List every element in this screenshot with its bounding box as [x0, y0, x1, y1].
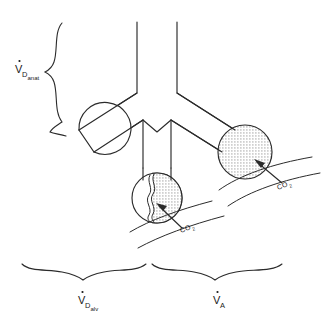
alveolus-middle-group: [132, 168, 182, 223]
diagram-canvas: CO 2 CO 2 V D anat V D alv V A: [0, 0, 335, 323]
alveolus-right-duct-wall-lower: [171, 120, 222, 152]
alveolus-right-duct-wall-upper: [177, 93, 235, 130]
alveolus-right-group: [171, 93, 272, 179]
label-alveolar-ventilation: V A: [213, 291, 225, 310]
alveolus-left-unshaded: [79, 102, 131, 154]
co2-label-left-subscript: 2: [191, 225, 196, 232]
label-anatomic-dead-space: V D anat: [15, 60, 40, 81]
alveolus-left-group: [79, 93, 143, 154]
brace-bottom-right-path: [152, 264, 282, 280]
vdot-alv-dot: [81, 291, 83, 293]
carina-notch: [143, 120, 171, 132]
alveolus-right-shading: [218, 125, 272, 179]
lung-ventilation-diagram: CO 2 CO 2 V D anat V D alv V A: [0, 0, 335, 323]
brace-vertical-path: [45, 23, 66, 136]
vdot-alv-sub-small: alv: [91, 306, 99, 312]
co2-label-left-text: CO: [179, 223, 192, 234]
co2-label-left: CO 2: [179, 222, 196, 236]
co2-label-right-subscript: 2: [288, 182, 293, 189]
trachea-right-wall: [177, 22, 235, 130]
anatomic-dead-space-brace: [45, 23, 66, 136]
co2-label-right-text: CO: [276, 180, 289, 191]
vdot-a-dot: [216, 291, 218, 293]
label-alveolar-dead-space: V D alv: [78, 291, 98, 312]
vdot-a-sub-main: A: [220, 301, 225, 310]
vdot-anat-sub-small: anat: [28, 75, 40, 81]
alveolar-dead-space-brace: [22, 264, 146, 280]
co2-label-right: CO 2: [276, 179, 293, 193]
brace-bottom-left-path: [22, 264, 146, 280]
alveolar-ventilation-brace: [152, 264, 282, 280]
vdot-anat-dot: [18, 60, 20, 62]
